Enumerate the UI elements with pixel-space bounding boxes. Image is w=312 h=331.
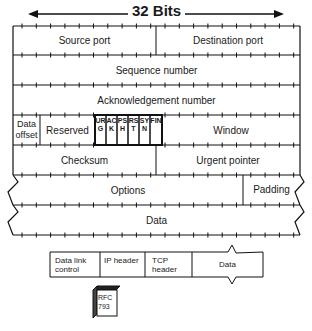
urgent-pointer-field: Urgent pointer <box>156 155 300 166</box>
padding-field: Padding <box>243 184 300 195</box>
rfc-label: RFC 793 <box>98 293 116 311</box>
width-label: 32 Bits <box>128 2 185 19</box>
flag-fin: FIN <box>150 117 162 145</box>
checksum-field: Checksum <box>13 155 156 166</box>
flag-rst: RST <box>128 117 139 145</box>
reserved-field: Reserved <box>40 125 95 136</box>
data-field: Data <box>13 215 300 226</box>
acknowledgement-number-field: Acknowledgement number <box>13 95 300 106</box>
destination-port-field: Destination port <box>156 35 300 46</box>
flag-psh: PSH <box>117 117 128 145</box>
frame-segment-ip-header: IP header <box>104 256 144 265</box>
window-field: Window <box>162 125 300 136</box>
flags-group: URG ACK PSH RST SYN FIN <box>95 117 162 145</box>
flag-urg: URG <box>95 117 106 145</box>
flag-ack: ACK <box>106 117 117 145</box>
options-field: Options <box>13 185 243 196</box>
data-offset-field: Data offset <box>13 119 40 141</box>
sequence-number-field: Sequence number <box>13 65 300 76</box>
frame-segment-data: Data <box>192 260 263 269</box>
flag-syn: SYN <box>139 117 150 145</box>
frame-segment-tcp-header: TCP header <box>152 256 192 274</box>
frame-segment-data-link: Data link control <box>55 256 100 274</box>
source-port-field: Source port <box>13 35 156 46</box>
